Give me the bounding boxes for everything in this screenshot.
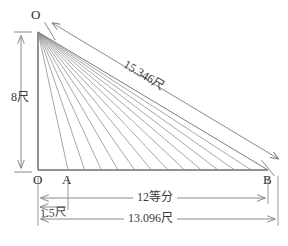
origin-vertex-label: O	[33, 173, 42, 186]
point-a-vertex-label: A	[62, 173, 71, 186]
triangle-outline	[38, 32, 268, 170]
fan-lines	[38, 32, 251, 170]
divisions-dimension-label: 12等分	[133, 191, 177, 203]
hypotenuse-dimension	[45, 22, 279, 176]
apex-vertex-label: O	[31, 8, 40, 21]
geometry-figure: O 8尺 15.346尺 O A B 12等分 1.5尺 13.096尺	[0, 0, 288, 246]
point-b-vertex-label: B	[263, 173, 272, 186]
height-dimension-label: 8尺	[11, 91, 29, 103]
offset-dimension-label: 1.5尺	[40, 207, 66, 219]
base-dimension-label: 13.096尺	[124, 212, 177, 224]
